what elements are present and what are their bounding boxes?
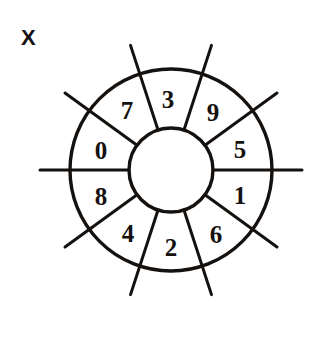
sector-label-6: 6 [210, 221, 223, 248]
sector-label-3: 3 [162, 86, 175, 113]
sector-label-4: 4 [122, 220, 135, 247]
sector-label-7: 7 [121, 97, 134, 124]
sector-label-8: 8 [95, 183, 108, 210]
sector-label-2: 2 [165, 234, 178, 261]
sector-label-5: 5 [234, 136, 247, 163]
wheel-diagram-figure: 3708426159 X [0, 0, 323, 337]
wheel-diagram-svg: 3708426159 X [0, 0, 323, 337]
panel-label: X [21, 25, 36, 50]
sector-label-1: 1 [234, 182, 247, 209]
sector-label-9: 9 [207, 99, 220, 126]
sector-label-0: 0 [95, 137, 108, 164]
